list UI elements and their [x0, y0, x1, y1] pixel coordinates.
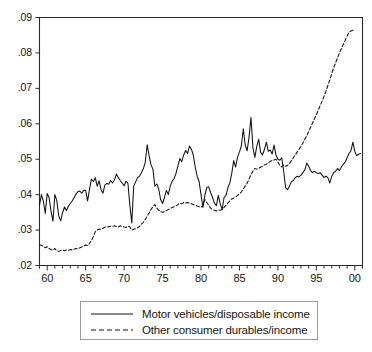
y-axis-tick-label: .03 [8, 224, 32, 234]
y-axis-tick-label: .06 [8, 118, 32, 128]
y-axis-tick-label: .02 [8, 260, 32, 270]
x-axis-tick-label: 70 [113, 273, 135, 284]
x-axis-tick-label: 80 [190, 273, 212, 284]
legend-label-motor-vehicles: Motor vehicles/disposable income [142, 308, 310, 320]
x-axis-tick-label: 00 [344, 273, 366, 284]
y-axis-tick-label: .07 [8, 82, 32, 92]
chart-canvas [0, 0, 372, 352]
legend-label-other-durables: Other consumer durables/income [142, 324, 308, 336]
x-axis-tick-label: 90 [267, 273, 289, 284]
x-axis-tick-label: 75 [152, 273, 174, 284]
legend-item-motor-vehicles: Motor vehicles/disposable income [90, 306, 310, 322]
x-axis-tick-label: 60 [36, 273, 58, 284]
y-axis-tick-label: .09 [8, 12, 32, 22]
x-axis-tick-label: 85 [228, 273, 250, 284]
y-axis-tick-label: .05 [8, 153, 32, 163]
legend-line-sample-solid [90, 309, 134, 319]
chart-legend: Motor vehicles/disposable income Other c… [80, 301, 318, 340]
legend-line-sample-dashed [90, 325, 134, 335]
chart-figure: Motor vehicles/disposable income Other c… [0, 0, 372, 352]
plot-frame [40, 18, 363, 266]
legend-item-other-durables: Other consumer durables/income [90, 322, 308, 338]
series-line-other-durables [40, 30, 355, 252]
x-axis-tick-label: 65 [75, 273, 97, 284]
series-line-motor-vehicles [40, 117, 361, 223]
x-axis-tick-label: 95 [305, 273, 327, 284]
y-axis-tick-label: .08 [8, 47, 32, 57]
y-axis-tick-label: .04 [8, 189, 32, 199]
